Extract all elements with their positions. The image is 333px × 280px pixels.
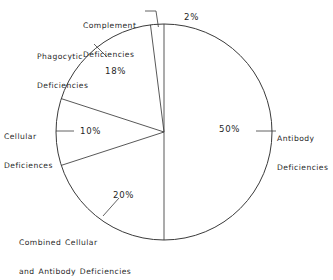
slice-value-cellular: 10% xyxy=(80,126,101,136)
slice-label-antibody-line1: Antibody xyxy=(277,134,328,144)
slice-value-phagocytic: 18% xyxy=(105,66,126,76)
slice-label-complement-line2: Deficiencies xyxy=(83,50,136,60)
slice-label-cellular: Cellular Deficiences xyxy=(4,113,53,190)
slice-label-combined-line2: and Antibody Deficiencies xyxy=(19,267,131,277)
slice-label-phagocytic: Phagocytic Deficiencies xyxy=(37,33,88,110)
slice-label-antibody-line2: Deficiencies xyxy=(277,163,328,173)
slice-value-antibody: 50% xyxy=(219,124,240,134)
divider-phagocytic-complement xyxy=(150,25,164,132)
slice-label-antibody: Antibody Deficiencies xyxy=(277,115,328,192)
divider-combined-cellular xyxy=(61,132,164,165)
slice-label-phagocytic-line1: Phagocytic xyxy=(37,52,88,62)
slice-label-complement-line1: Complement xyxy=(83,21,136,31)
slice-label-cellular-line2: Deficiences xyxy=(4,161,53,171)
slice-value-combined: 20% xyxy=(113,190,134,200)
slice-label-phagocytic-line2: Deficiencies xyxy=(37,81,88,91)
slice-label-combined: Combined Cellular and Antibody Deficienc… xyxy=(19,219,131,280)
leader-combined xyxy=(103,198,119,216)
slice-value-complement: 2% xyxy=(184,12,199,22)
slice-label-cellular-line1: Cellular xyxy=(4,132,53,142)
slice-label-combined-line1: Combined Cellular xyxy=(19,238,131,248)
